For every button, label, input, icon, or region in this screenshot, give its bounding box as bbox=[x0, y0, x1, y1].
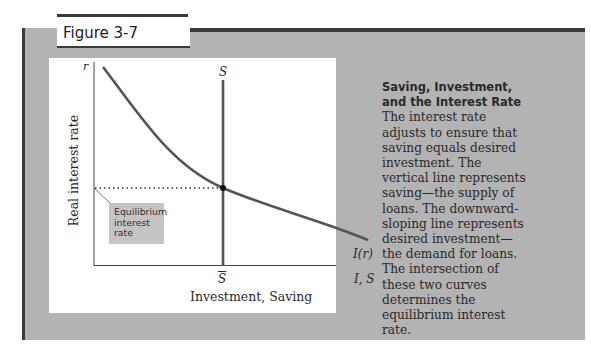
r-axis-label: r bbox=[83, 60, 88, 73]
x-axis-end-label: I, S bbox=[354, 272, 375, 286]
caption-title: Saving, Investment, and the Interest Rat… bbox=[382, 80, 521, 109]
equilibrium-point bbox=[220, 185, 226, 191]
i-curve-label: I(r) bbox=[353, 247, 373, 261]
caption-body: The interest rate adjusts to ensure that… bbox=[382, 110, 526, 337]
eq-label-line1: Equilibrium bbox=[114, 207, 164, 218]
y-axis-title: Real interest rate bbox=[66, 106, 81, 236]
s-curve-label: S bbox=[219, 65, 227, 79]
eq-label-line3: rate bbox=[114, 228, 164, 239]
equilibrium-label-box: Equilibrium interest rate bbox=[109, 203, 164, 244]
label-leader-line bbox=[94, 188, 110, 203]
x-axis-title: Investment, Saving bbox=[190, 289, 312, 304]
s-bar-label: S̄ bbox=[218, 272, 226, 286]
figure-caption: Saving, Investment, and the Interest Rat… bbox=[382, 80, 532, 338]
